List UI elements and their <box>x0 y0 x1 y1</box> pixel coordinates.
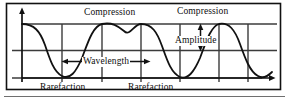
label-compression-2: Compression <box>177 7 228 17</box>
label-wavelength: Wavelength <box>82 57 130 67</box>
diagram-border <box>7 4 281 90</box>
label-amplitude: Amplitude <box>174 36 218 46</box>
label-rarefaction-1: Rarefaction <box>40 83 85 93</box>
label-rarefaction-2: Rarefaction <box>128 83 173 93</box>
sound-wave-diagram: Compression Compression Amplitude Wavele… <box>0 0 289 101</box>
label-compression-1: Compression <box>84 8 135 18</box>
